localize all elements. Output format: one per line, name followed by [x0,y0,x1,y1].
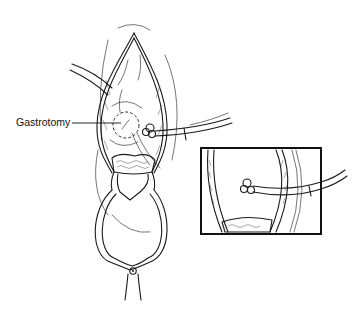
gastrotomy-label: Gastrotomy [16,116,70,128]
gastrotomy-illustration [0,0,359,311]
illustration: Gastrotomy [0,0,359,311]
